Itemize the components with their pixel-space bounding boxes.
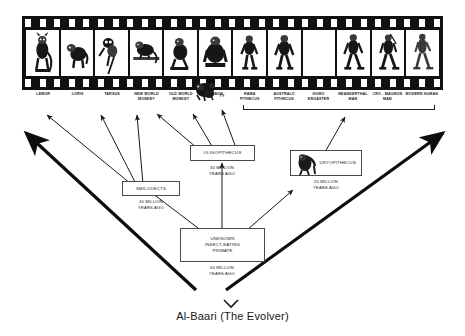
film-perforation — [404, 19, 410, 27]
film-frame-loris-figure[interactable] — [61, 30, 94, 76]
film-perforation — [244, 79, 250, 87]
arrow-dryopithecus-to-hominids — [325, 117, 345, 152]
node-oligopithecus-age: 30 MILLION YEARS AGO — [187, 165, 257, 176]
film-perforation — [244, 19, 250, 27]
film-perforation — [288, 79, 294, 87]
film-frame-australopithecus-figure[interactable] — [268, 30, 301, 76]
node-dryopithecus-label: DRYOPITHECUS — [320, 160, 356, 166]
film-perforation — [361, 19, 367, 27]
node-dryopithecus-age: 20 MILLION YEARS AGO — [291, 179, 361, 190]
film-perforation — [40, 79, 46, 87]
film-perforation — [69, 79, 75, 87]
node-smilodects-age: 45 MILLION YEARS AGO — [116, 199, 186, 210]
node-dryopithecus[interactable]: DRYOPITHECUS — [290, 150, 362, 176]
film-perforation — [375, 79, 381, 87]
overlay-label-ty: TY — [212, 94, 232, 99]
film-perforation — [25, 79, 31, 87]
node-smilodects-label: SMILODECTS — [136, 186, 166, 192]
film-frame-old-world-monkey-figure[interactable] — [164, 30, 197, 76]
film-perforation — [390, 79, 396, 87]
hominid-bracket — [243, 105, 435, 110]
arrow-smilodects-to-tarsus — [137, 115, 143, 184]
evolution-branch-left — [26, 133, 196, 290]
film-perforation — [331, 79, 337, 87]
film-perforation — [273, 79, 279, 87]
film-perforation — [54, 79, 60, 87]
node-unknown-primate[interactable]: UNKNOWN INSECT-EATING PRIMATE — [180, 228, 265, 262]
film-perforation — [186, 19, 192, 27]
film-frame-cro-magnon-figure[interactable] — [372, 30, 405, 76]
film-perforation — [98, 79, 104, 87]
film-perforation — [273, 19, 279, 27]
film-perforation — [317, 19, 323, 27]
film-perforation — [375, 19, 381, 27]
film-frame-container — [26, 30, 439, 76]
film-perforation — [419, 79, 425, 87]
film-perforation — [229, 79, 235, 87]
node-oligopithecus-label: OLIGOPITHECUS — [204, 150, 242, 156]
film-perforation — [200, 19, 206, 27]
chevron-down-icon — [224, 300, 238, 307]
film-perforation — [142, 79, 148, 87]
film-perforation — [113, 79, 119, 87]
film-perforation — [361, 79, 367, 87]
page-title: Al-Baari (The Evolver) — [0, 310, 465, 322]
film-perforation — [346, 79, 352, 87]
film-perforation — [229, 19, 235, 27]
node-oligopithecus[interactable]: OLIGOPITHECUS — [190, 145, 255, 161]
film-perforation — [156, 19, 162, 27]
diagram-canvas: LEMURLORISTARSUSNEW WORLD MONKEYOLD WORL… — [0, 0, 465, 336]
film-perforation — [127, 79, 133, 87]
film-perforation — [259, 79, 265, 87]
primate-evolution-filmstrip — [22, 16, 443, 90]
film-perforation — [331, 19, 337, 27]
film-perforation — [259, 19, 265, 27]
film-perforation — [288, 19, 294, 27]
film-perforation — [69, 19, 75, 27]
film-perforation — [434, 79, 440, 87]
frame-label-modern-human-figure: MODERN HUMAN — [398, 92, 446, 97]
film-perforation — [317, 79, 323, 87]
film-frame-modern-human-figure[interactable] — [406, 30, 439, 76]
film-perforation — [171, 19, 177, 27]
arrow-oligopithecus-to-old-world-monkey — [193, 114, 213, 148]
film-perforation — [404, 79, 410, 87]
film-perforation — [40, 19, 46, 27]
arrow-unknown-to-dryopithecus — [247, 190, 293, 230]
film-perforation — [83, 19, 89, 27]
film-perforation — [127, 19, 133, 27]
arrow-oligopithecus-to-gibbon — [222, 110, 236, 148]
film-perforations-bottom — [22, 79, 443, 87]
film-perforation — [302, 79, 308, 87]
node-unknown-primate-label: UNKNOWN INSECT-EATING PRIMATE — [205, 236, 240, 254]
film-frame-ramapithecus-figure[interactable] — [233, 30, 266, 76]
film-frame-lemur-figure[interactable] — [26, 30, 59, 76]
film-perforations-top — [22, 19, 443, 27]
film-perforation — [171, 79, 177, 87]
film-frame-tarsier-figure[interactable] — [95, 30, 128, 76]
film-perforation — [98, 19, 104, 27]
node-unknown-primate-age: 60 MILLION YEARS AGO — [182, 265, 262, 276]
node-smilodects[interactable]: SMILODECTS — [122, 181, 180, 196]
film-frame-new-world-monkey-figure[interactable] — [130, 30, 163, 76]
film-frame-neanderthal-figure[interactable] — [337, 30, 370, 76]
film-frame-blank-frame[interactable] — [303, 30, 336, 76]
film-perforation — [434, 19, 440, 27]
film-perforation — [302, 19, 308, 27]
film-perforation — [54, 19, 60, 27]
film-perforation — [113, 19, 119, 27]
arrow-smilodects-to-loris — [101, 115, 136, 184]
film-perforation — [83, 79, 89, 87]
film-perforation — [186, 79, 192, 87]
film-frame-gorilla-figure[interactable] — [199, 30, 232, 76]
arrow-smilodects-to-lemur — [47, 115, 131, 184]
dryopithecus-ape-figure — [294, 152, 320, 176]
film-perforation — [419, 19, 425, 27]
film-perforation — [142, 19, 148, 27]
film-perforation — [215, 19, 221, 27]
film-perforation — [346, 19, 352, 27]
film-perforation — [156, 79, 162, 87]
film-perforation — [25, 19, 31, 27]
film-perforation — [390, 19, 396, 27]
arrow-oligopithecus-to-new-world-monkey — [157, 114, 197, 148]
